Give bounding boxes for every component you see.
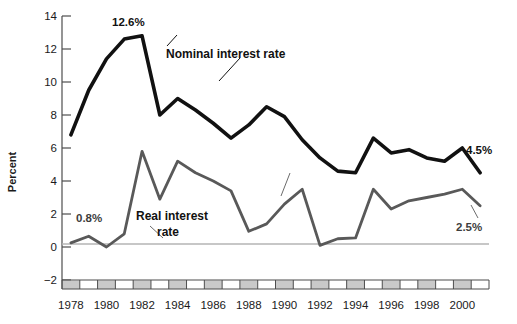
real-series-label-line1: Real interest xyxy=(136,209,208,223)
x-tick-label: 1980 xyxy=(94,299,120,311)
x-tick-label: 1986 xyxy=(200,299,226,311)
y-tick-label: 12 xyxy=(44,43,57,55)
x-tick-label: 1988 xyxy=(236,299,262,311)
y-tick-label: 6 xyxy=(51,142,57,154)
x-tick-label: 2000 xyxy=(450,299,476,311)
y-tick-label: 14 xyxy=(44,10,57,22)
x-tick-label: 1996 xyxy=(378,299,404,311)
interest-rate-chart: −202468101214 Percent 197819801982198419… xyxy=(0,0,517,324)
x-tick-label: 1984 xyxy=(165,299,191,311)
y-tick-label: −2 xyxy=(44,274,57,286)
x-tick-label: 1982 xyxy=(129,299,155,311)
annotation-peak-nominal: 12.6% xyxy=(112,16,145,28)
y-tick-label: 8 xyxy=(51,109,57,121)
chart-canvas: −202468101214 Percent 197819801982198419… xyxy=(0,0,517,324)
x-tick-label: 1992 xyxy=(307,299,333,311)
x-tick-label: 1990 xyxy=(272,299,298,311)
y-axis-title: Percent xyxy=(6,151,18,192)
y-tick-label: 4 xyxy=(51,175,58,187)
x-tick-label: 1994 xyxy=(343,299,369,311)
nominal-series-label: Nominal interest rate xyxy=(166,47,286,61)
y-tick-label: 0 xyxy=(51,241,57,253)
x-tick-label: 1998 xyxy=(414,299,440,311)
y-tick-label: 2 xyxy=(51,208,57,220)
annotation-end-real: 2.5% xyxy=(456,221,482,233)
annotation-end-nominal: 4.5% xyxy=(466,144,492,156)
real-series-label-line2: rate xyxy=(157,225,179,239)
x-tick-label: 1978 xyxy=(58,299,84,311)
annotation-start-real: 0.8% xyxy=(76,212,102,224)
y-tick-label: 10 xyxy=(44,76,57,88)
